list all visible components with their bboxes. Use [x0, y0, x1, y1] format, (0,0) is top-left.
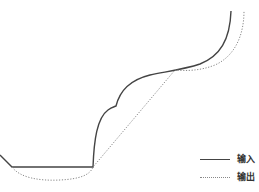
- legend: 输入 输出: [200, 152, 258, 188]
- input-series-line: [0, 11, 231, 167]
- dotted-line-swatch-icon: [200, 177, 230, 178]
- legend-item-output: 输出: [200, 170, 258, 184]
- legend-item-input: 输入: [200, 152, 258, 166]
- legend-label: 输入: [237, 152, 255, 166]
- legend-label: 输出: [237, 170, 255, 184]
- solid-line-swatch-icon: [200, 159, 230, 160]
